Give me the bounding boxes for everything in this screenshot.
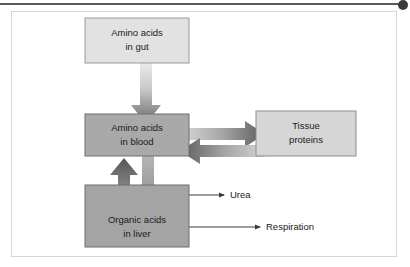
node-tissue-proteins-line2: proteins [289, 134, 323, 145]
figure-root: Amino acids in gut Amino acids in blood … [0, 0, 410, 267]
header-rule [0, 3, 404, 5]
node-amino-acids-gut-line1: Amino acids [111, 27, 163, 38]
output-label-urea: Urea [230, 189, 251, 200]
diagram-panel: Amino acids in gut Amino acids in blood … [11, 11, 397, 257]
node-amino-acids-gut-line2: in gut [125, 41, 149, 52]
node-amino-acids-blood: Amino acids in blood [85, 114, 189, 156]
node-amino-acids-blood-line2: in blood [120, 136, 153, 147]
header-corner-dot-icon [398, 0, 408, 10]
node-organic-acids-liver: Organic acids in liver [85, 185, 189, 247]
diagram-canvas: Amino acids in gut Amino acids in blood … [12, 12, 396, 256]
output-label-respiration: Respiration [266, 221, 314, 232]
node-tissue-proteins-line1: Tissue [292, 120, 320, 131]
node-tissue-proteins: Tissue proteins [256, 111, 356, 156]
node-amino-acids-blood-line1: Amino acids [111, 122, 163, 133]
node-organic-acids-liver-line1: Organic acids [108, 214, 166, 225]
node-amino-acids-gut: Amino acids in gut [85, 18, 189, 63]
node-organic-acids-liver-line2: in liver [123, 228, 150, 239]
